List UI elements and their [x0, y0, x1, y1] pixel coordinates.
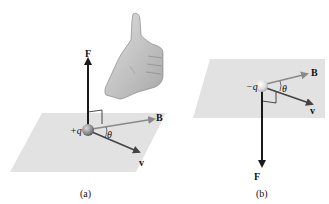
field-label-b: B — [311, 67, 318, 78]
panel-b: F B v −q θ (b) — [193, 59, 325, 200]
panel-a: F B v +q θ (a) — [10, 13, 166, 200]
charge-label-b: −q — [246, 81, 258, 92]
force-label-a: F — [85, 48, 91, 59]
thumbs-up-hand-icon — [105, 13, 163, 99]
charge-sphere-a — [82, 124, 94, 136]
field-label-a: B — [156, 112, 163, 123]
caption-b: (b) — [256, 188, 268, 200]
velocity-label-b: v — [310, 105, 315, 116]
caption-a: (a) — [80, 188, 91, 200]
angle-label-b: θ — [282, 83, 287, 94]
magnetic-force-diagram: F B v +q θ (a) F B v −q θ (b) — [0, 0, 329, 204]
velocity-label-a: v — [139, 157, 144, 168]
force-label-b: F — [254, 171, 260, 182]
angle-label-a: θ — [107, 129, 112, 140]
charge-sphere-b — [256, 80, 268, 92]
charge-label-a: +q — [70, 125, 82, 136]
